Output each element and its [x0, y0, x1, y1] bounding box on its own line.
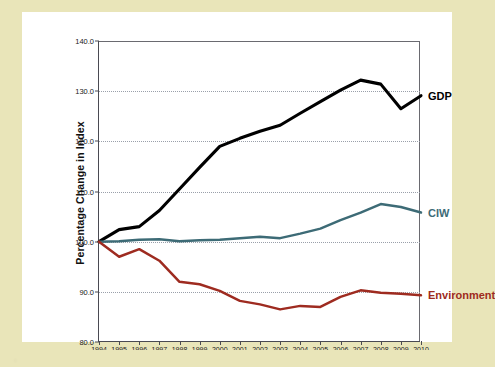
plot-area: 80.090.0100.0110.0120.0130.0140.0 199419… [98, 41, 420, 342]
y-tick-label: 140.0 [75, 37, 94, 46]
caption-blurred-text: . [14, 353, 444, 365]
y-tick-label: 120.0 [75, 137, 94, 146]
chart-panel: Percentage Change in Index 80.090.0100.0… [22, 12, 452, 342]
series-label-environment: Environment [428, 289, 495, 301]
series-line-environment [99, 242, 421, 310]
series-line-ciw [99, 204, 421, 242]
y-tick-label: 130.0 [75, 87, 94, 96]
series-line-gdp [99, 80, 421, 242]
y-tick-label: 100.0 [75, 237, 94, 246]
series-label-ciw: CIW [428, 207, 449, 219]
y-tick-label: 90.0 [79, 287, 94, 296]
series-label-gdp: GDP [428, 90, 452, 102]
y-tick-label: 110.0 [76, 187, 94, 196]
series-lines [99, 41, 421, 342]
x-tick-mark [421, 341, 422, 345]
